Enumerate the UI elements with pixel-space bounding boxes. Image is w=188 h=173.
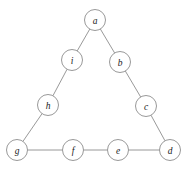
graph-node-i[interactable]: i — [62, 50, 83, 71]
graph-edge-g-h — [23, 114, 42, 142]
node-label-d: d — [168, 146, 173, 156]
graph-edge-b-c — [125, 71, 140, 97]
node-layer: abcdefghi — [7, 10, 181, 161]
graph-node-b[interactable]: b — [110, 52, 131, 73]
graph-edge-h-i — [53, 69, 67, 95]
graph-diagram: abcdefghi — [0, 0, 188, 173]
graph-node-h[interactable]: h — [38, 95, 59, 116]
graph-node-f[interactable]: f — [63, 140, 84, 161]
graph-node-a[interactable]: a — [85, 10, 106, 31]
graph-node-d[interactable]: d — [160, 140, 181, 161]
graph-edge-i-a — [77, 29, 90, 51]
node-label-g: g — [15, 146, 20, 156]
node-label-e: e — [116, 146, 120, 156]
graph-edge-a-b — [100, 29, 114, 53]
graph-edge-c-d — [151, 115, 165, 141]
graph-node-e[interactable]: e — [108, 140, 129, 161]
node-label-h: h — [46, 101, 51, 111]
node-label-b: b — [118, 58, 123, 68]
edge-layer — [23, 29, 165, 150]
node-label-a: a — [93, 16, 98, 26]
graph-node-c[interactable]: c — [136, 96, 157, 117]
node-label-i: i — [71, 56, 74, 66]
graph-canvas-svg: abcdefghi — [0, 0, 188, 173]
graph-node-g[interactable]: g — [7, 140, 28, 161]
